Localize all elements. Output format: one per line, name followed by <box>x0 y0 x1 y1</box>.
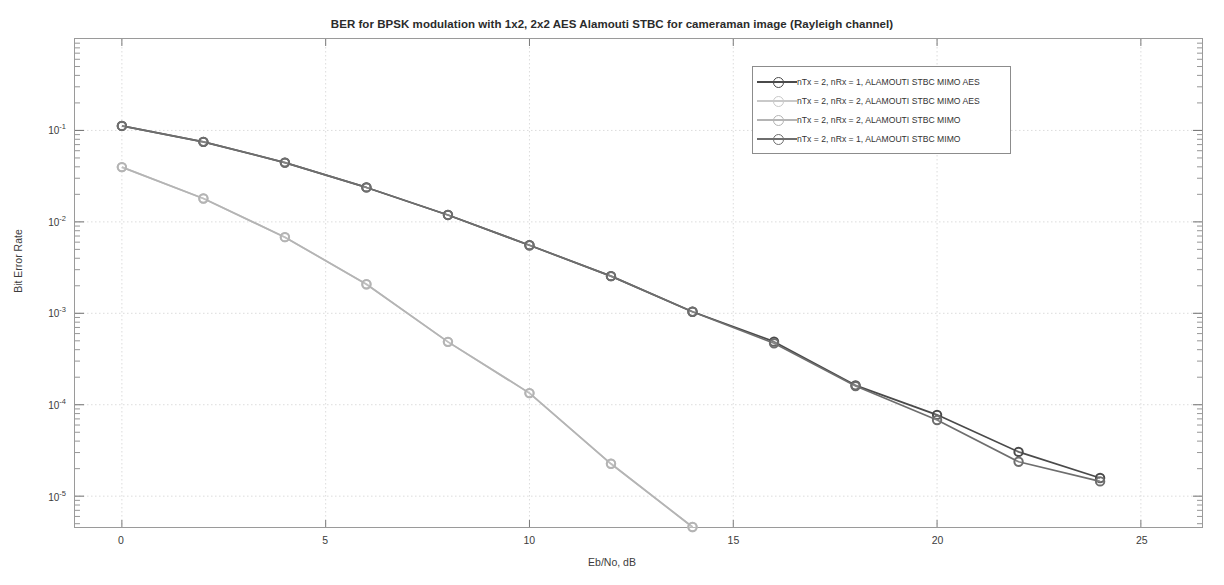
data-point-marker <box>1014 448 1022 456</box>
y-tick-label: 10-5 <box>48 492 66 503</box>
y-tick-label: 10-1 <box>48 124 66 135</box>
y-tick-label: 10-3 <box>48 308 66 319</box>
circle-marker-icon <box>773 96 784 107</box>
legend-item-label: nTx = 2, nRx = 2, ALAMOUTI STBC MIMO AES <box>797 96 980 106</box>
y-tick-exponent: -2 <box>59 214 66 223</box>
data-point-marker <box>607 460 615 468</box>
y-tick-base: 10 <box>48 216 59 227</box>
circle-marker-icon <box>773 77 784 88</box>
data-point-marker <box>199 194 207 202</box>
legend-item[interactable]: nTx = 2, nRx = 2, ALAMOUTI STBC MIMO <box>757 110 1004 129</box>
data-point-marker <box>362 280 370 288</box>
data-point-marker <box>1096 477 1104 485</box>
y-tick-base: 10 <box>48 400 59 411</box>
y-tick-base: 10 <box>48 492 59 503</box>
x-tick-label: 15 <box>728 534 740 546</box>
data-point-marker <box>199 138 207 146</box>
legend-line-sample <box>757 94 797 108</box>
plot-area <box>74 38 1203 528</box>
y-tick-label: 10-4 <box>48 400 66 411</box>
legend-item-label: nTx = 2, nRx = 2, ALAMOUTI STBC MIMO <box>797 115 961 125</box>
series-line <box>122 167 693 527</box>
series-line <box>122 126 1100 481</box>
data-point-marker <box>525 241 533 249</box>
legend-item[interactable]: nTx = 2, nRx = 1, ALAMOUTI STBC MIMO <box>757 129 1004 148</box>
data-point-marker <box>688 523 696 531</box>
data-point-marker <box>525 389 533 397</box>
y-tick-exponent: -1 <box>59 122 66 131</box>
legend-item[interactable]: nTx = 2, nRx = 2, ALAMOUTI STBC MIMO AES <box>757 91 1004 110</box>
circle-marker-icon <box>773 115 784 126</box>
data-point-marker <box>362 183 370 191</box>
data-point-marker <box>281 158 289 166</box>
y-tick-label: 10-2 <box>48 216 66 227</box>
data-point-marker <box>118 163 126 171</box>
series-line <box>122 167 693 527</box>
data-point-marker <box>444 211 452 219</box>
figure-canvas: BER for BPSK modulation with 1x2, 2x2 AE… <box>0 0 1224 585</box>
x-axis-label: Eb/No, dB <box>0 556 1224 568</box>
x-axis-tick-labels: 0510152025 <box>74 534 1203 550</box>
y-tick-base: 10 <box>48 308 59 319</box>
y-tick-exponent: -4 <box>59 397 66 406</box>
legend-line-sample <box>757 113 797 127</box>
legend-item[interactable]: nTx = 2, nRx = 1, ALAMOUTI STBC MIMO AES <box>757 72 1004 91</box>
series-layer <box>75 39 1202 527</box>
x-tick-label: 10 <box>523 534 535 546</box>
x-tick-label: 20 <box>932 534 944 546</box>
x-tick-label: 0 <box>118 534 124 546</box>
chart-title: BER for BPSK modulation with 1x2, 2x2 AE… <box>0 18 1224 30</box>
circle-marker-icon <box>773 134 784 145</box>
series-line <box>122 126 1100 478</box>
data-point-marker <box>281 233 289 241</box>
legend-box[interactable]: nTx = 2, nRx = 1, ALAMOUTI STBC MIMO AES… <box>752 66 1011 154</box>
data-point-marker <box>688 308 696 316</box>
legend-line-sample <box>757 75 797 89</box>
legend-line-sample <box>757 132 797 146</box>
data-point-marker <box>444 338 452 346</box>
data-point-marker <box>118 122 126 130</box>
y-tick-base: 10 <box>48 124 59 135</box>
legend-item-label: nTx = 2, nRx = 1, ALAMOUTI STBC MIMO <box>797 134 961 144</box>
x-tick-label: 5 <box>322 534 328 546</box>
data-point-marker <box>607 272 615 280</box>
y-tick-exponent: -5 <box>59 489 66 498</box>
y-tick-exponent: -3 <box>59 306 66 315</box>
data-point-marker <box>1014 458 1022 466</box>
data-point-marker <box>933 416 941 424</box>
data-point-marker <box>851 382 859 390</box>
data-point-marker <box>770 339 778 347</box>
legend-item-label: nTx = 2, nRx = 1, ALAMOUTI STBC MIMO AES <box>797 77 980 87</box>
y-axis-tick-labels: 10-110-210-310-410-5 <box>18 38 66 528</box>
x-tick-label: 25 <box>1136 534 1148 546</box>
